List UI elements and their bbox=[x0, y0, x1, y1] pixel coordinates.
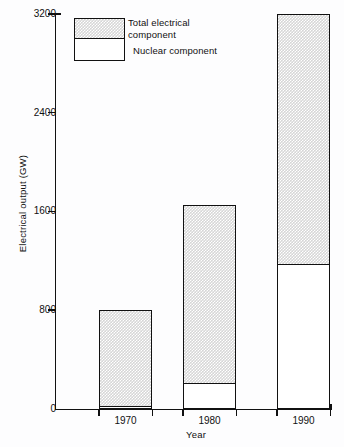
y-tick-label: 1600 bbox=[12, 205, 56, 216]
bar-nuclear-1990 bbox=[277, 264, 330, 409]
x-tick-label-1990: 1990 bbox=[274, 415, 334, 426]
x-axis-title: Year bbox=[60, 429, 332, 440]
bar-chart: Electrical output (GW) 3200 2400 1600 80… bbox=[0, 0, 344, 447]
legend-swatch-nuclear bbox=[75, 39, 124, 60]
x-tick-label-1970: 1970 bbox=[96, 415, 156, 426]
y-tick-label: 2400 bbox=[12, 107, 56, 118]
bar-nuclear-1970 bbox=[99, 406, 152, 410]
y-tick-label: 3200 bbox=[12, 8, 56, 19]
x-tick-label-1980: 1980 bbox=[180, 415, 240, 426]
bar-total-1970 bbox=[99, 310, 152, 409]
y-tick-label: 0 bbox=[12, 403, 56, 414]
bar-nuclear-1980 bbox=[183, 383, 236, 409]
y-tick-label: 800 bbox=[12, 304, 56, 315]
legend-label-nuclear: Nuclear component bbox=[133, 45, 263, 57]
legend-swatch-total-electrical bbox=[75, 19, 124, 39]
legend bbox=[74, 18, 125, 61]
bar-total-1980 bbox=[183, 205, 236, 409]
legend-label-total-electrical: Total electrical component bbox=[128, 17, 248, 40]
y-axis-title: Electrical output (GW) bbox=[17, 124, 28, 284]
